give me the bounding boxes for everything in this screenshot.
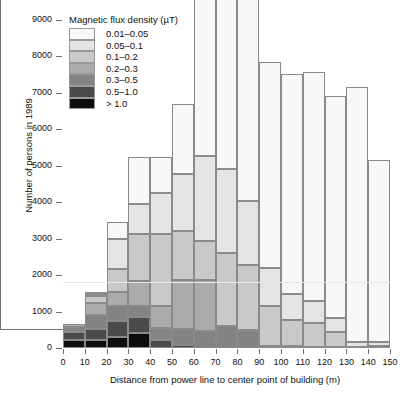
histogram-bar [281,20,303,348]
x-axis-tick-label: 0 [51,357,75,367]
bar-segment [150,340,172,348]
bar-segment [259,268,281,306]
bar-segment [150,234,172,307]
legend-label: 0.2–0.3 [106,63,138,75]
x-axis-tick [346,349,347,354]
bar-segment [281,294,303,321]
bar-segment [85,296,107,303]
x-axis-tick-label: 10 [73,357,97,367]
x-axis-tick-label: 140 [356,357,380,367]
bar-segment [237,330,259,348]
y-axis-tick-label: 3000 [12,234,52,243]
y-axis-tick [56,166,62,167]
bar-segment [325,318,347,332]
bar-segment [259,346,281,348]
bar-segment [63,332,85,340]
bar-segment [216,169,238,253]
chart-legend: Magnetic flux density (µT) 0.01–0.050.05… [60,14,210,109]
bar-segment [128,204,150,235]
legend-swatch [69,40,95,52]
legend-swatch [69,98,95,110]
x-axis-tick [259,349,260,354]
bar-segment [259,62,281,268]
legend-entry: > 1.0 [60,98,210,110]
bar-segment [63,324,85,327]
x-axis-tick [85,349,86,354]
bar-segment [63,340,85,348]
x-axis-tick-label: 120 [313,357,337,367]
bar-segment [172,104,194,174]
bar-segment [172,345,194,348]
x-axis-tick-label: 110 [291,357,315,367]
legend-entry: 0.3–0.5 [60,74,210,86]
legend-label: 0.3–0.5 [106,74,138,86]
bar-segment [194,280,216,331]
y-axis-tick [56,202,62,203]
x-axis-tick-label: 100 [269,357,293,367]
bar-segment [303,72,325,300]
bar-segment [237,201,259,266]
y-axis-tick-label: 9000 [12,15,52,24]
y-axis-tick [56,20,62,21]
chart-figure: Number of persons in 1989 Distance from … [0,0,405,404]
bar-segment [85,329,107,341]
bar-segment [368,342,390,346]
y-axis-line [0,0,1,329]
y-axis-tick-label: 2000 [12,270,52,279]
legend-label: > 1.0 [106,98,127,110]
bar-segment [107,239,129,270]
bar-segment [85,303,107,315]
y-axis-tick-label: 5000 [12,161,52,170]
legend-swatch [69,63,95,75]
bar-segment [346,87,368,341]
x-axis-tick-label: 40 [138,357,162,367]
y-axis-tick [56,275,62,276]
x-axis-tick [107,349,108,354]
x-axis-tick-label: 80 [225,357,249,367]
x-axis-tick-label: 70 [204,357,228,367]
legend-swatch [69,28,95,40]
y-axis-tick-label: 1000 [12,307,52,316]
x-axis-tick-label: 130 [334,357,358,367]
x-axis-tick [281,349,282,354]
bar-segment [107,269,129,292]
histogram-bar [368,20,390,348]
bar-segment [325,332,347,347]
histogram-bar [303,20,325,348]
bar-segment [128,234,150,281]
legend-entry: 0.5–1.0 [60,86,210,98]
legend-entry: 0.1–0.2 [60,51,210,63]
y-axis-tick-label: 7000 [12,88,52,97]
bar-segment [85,294,107,296]
bar-segment [216,326,238,348]
legend-entry: 0.05–0.1 [60,40,210,52]
histogram-bar [237,20,259,348]
bar-segment [216,0,238,169]
x-axis-tick [216,349,217,354]
y-axis-tick-label: 4000 [12,197,52,206]
y-axis-tick [56,93,62,94]
bar-segment [325,96,347,318]
x-axis-tick [325,349,326,354]
bar-segment [346,342,368,347]
bar-segment [63,327,85,332]
bar-segment [172,329,194,345]
bar-segment [172,280,194,329]
bar-segment [303,323,325,346]
bar-segment [150,306,172,327]
y-axis-tick [56,312,62,313]
bar-segment [237,0,259,201]
legend-label: 0.1–0.2 [106,51,138,63]
y-axis-tick [56,129,62,130]
bar-segment [128,306,150,317]
bar-segment [194,241,216,280]
x-axis-label: Distance from power line to center point… [40,374,405,385]
bar-segment [128,157,150,204]
x-axis-tick-label: 30 [116,357,140,367]
bar-segment [150,193,172,233]
bar-segment [107,337,129,348]
legend-swatch [69,86,95,98]
legend-label: 0.01–0.05 [106,28,148,40]
bar-segment [107,222,129,238]
legend-entry: 0.01–0.05 [60,28,210,40]
